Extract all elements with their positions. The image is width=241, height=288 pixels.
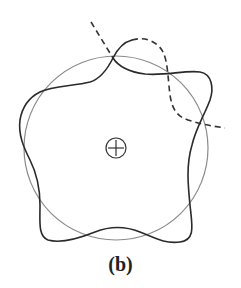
center-plus-in-circle-icon <box>106 138 126 158</box>
diagram-figure <box>0 0 241 288</box>
dashed-curve-segment <box>91 22 113 58</box>
figure-caption: (b) <box>0 253 241 276</box>
